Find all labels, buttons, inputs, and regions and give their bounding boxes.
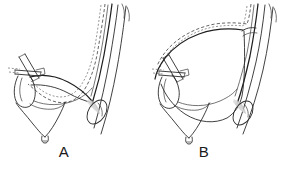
common-bile-duct-b [235, 4, 276, 134]
caption-row: A B [0, 142, 285, 174]
gallbladder-body-a [16, 102, 66, 143]
catheter-path-b [157, 4, 251, 67]
gallbladder-body-b [160, 103, 210, 144]
surgical-clip-b [152, 55, 189, 82]
figure-root: A B [0, 0, 285, 174]
panel-a [0, 0, 142, 146]
gallbladder-infundibulum-a [14, 74, 35, 107]
panel-label-b: B [184, 142, 224, 162]
panel-label-a: A [44, 142, 84, 162]
surgical-clip-a [8, 54, 45, 81]
panel-b [143, 0, 285, 146]
gallbladder-contour-b [178, 89, 237, 106]
cystic-duct-a [30, 76, 93, 103]
gallbladder-infundibulum-b [158, 75, 179, 108]
common-bile-duct-a [91, 4, 129, 134]
